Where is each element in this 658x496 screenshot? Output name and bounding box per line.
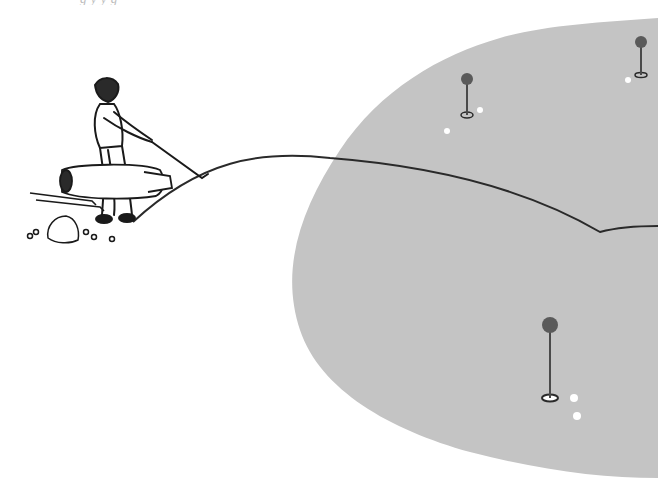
- golf-illustration: [0, 0, 658, 496]
- putting-green: [292, 18, 658, 478]
- golf-bag: [60, 165, 172, 199]
- golfer-figure: [95, 78, 208, 223]
